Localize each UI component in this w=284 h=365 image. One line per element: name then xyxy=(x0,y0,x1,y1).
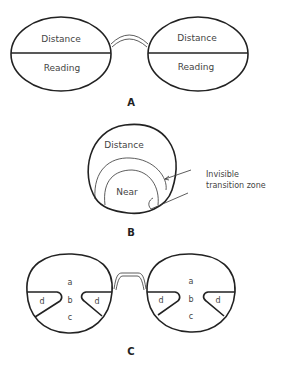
bridge-outer xyxy=(111,35,148,44)
near-label: Near xyxy=(116,187,138,197)
right-b: b xyxy=(188,295,193,304)
progressive-lens xyxy=(88,124,176,213)
caption-c: C xyxy=(127,346,134,357)
distance-label: Distance xyxy=(104,140,144,150)
right-c: c xyxy=(189,312,193,321)
bifocal-diagram: Distance Reading Distance Reading A Dist… xyxy=(0,0,284,365)
caption-a: A xyxy=(127,97,135,108)
panel-b: Distance Near Invisible transition zone … xyxy=(88,124,266,238)
arrow-lower-icon xyxy=(149,198,153,209)
right-d-right: d xyxy=(215,296,220,305)
annotation-line-2: transition zone xyxy=(206,181,266,190)
left-reading-label: Reading xyxy=(44,63,81,73)
panel-a: Distance Reading Distance Reading A xyxy=(11,17,248,108)
left-lens-a xyxy=(11,17,111,91)
left-b: b xyxy=(67,296,72,305)
panel-c: a b c d d a b c d d C xyxy=(27,254,235,357)
right-distance-label: Distance xyxy=(177,33,217,43)
left-c: c xyxy=(68,313,72,322)
right-a: a xyxy=(189,277,194,286)
left-d-left: d xyxy=(39,297,44,306)
leader-line-upper xyxy=(165,170,191,179)
right-d-left: d xyxy=(158,296,163,305)
bridge-c-inner xyxy=(116,276,144,290)
left-d-right: d xyxy=(94,297,99,306)
left-distance-label: Distance xyxy=(41,34,81,44)
left-a: a xyxy=(68,278,73,287)
right-reading-label: Reading xyxy=(178,62,215,72)
caption-b: B xyxy=(127,227,135,238)
right-lens-a xyxy=(148,17,248,91)
bridge-c-outer xyxy=(114,273,146,289)
bridge-inner xyxy=(112,39,147,47)
annotation-line-1: Invisible xyxy=(206,170,239,179)
